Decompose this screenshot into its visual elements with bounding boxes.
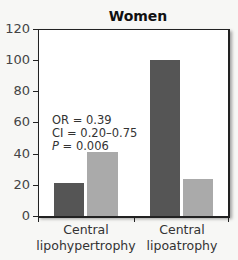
y-tick-80: [33, 91, 38, 92]
category-label-lipoatrophy: Central lipoatrophy: [132, 222, 232, 254]
p-value-text: P = 0.006: [52, 140, 137, 153]
y-tick-120: [33, 29, 38, 30]
stats-annotation: OR = 0.39 CI = 0.20–0.75 P = 0.006: [52, 114, 137, 153]
y-axis: [38, 29, 39, 216]
bar-lipoatrophy-light: [183, 179, 213, 216]
y-label-100: 100: [0, 52, 30, 67]
y-tick-20: [33, 185, 38, 186]
y-tick-100: [33, 60, 38, 61]
y-label-80: 80: [0, 83, 30, 98]
y-label-0: 0: [0, 208, 30, 223]
y-label-40: 40: [0, 146, 30, 161]
bar-lipoatrophy-dark: [150, 60, 180, 216]
category-label-lipohypertrophy: Central lipohypertrophy: [36, 222, 136, 254]
bar-lipohypertrophy-dark: [54, 183, 84, 216]
y-tick-60: [33, 122, 38, 123]
bar-lipohypertrophy-light: [87, 152, 118, 216]
y-label-20: 20: [0, 177, 30, 192]
chart-title: Women: [38, 8, 238, 24]
y-label-120: 120: [0, 21, 30, 36]
y-label-60: 60: [0, 114, 30, 129]
y-tick-40: [33, 154, 38, 155]
